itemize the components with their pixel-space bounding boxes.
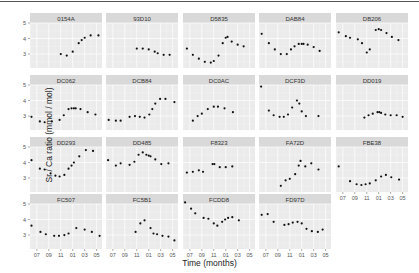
data-point — [226, 36, 228, 38]
panel-background — [259, 147, 331, 192]
data-point — [154, 51, 156, 53]
data-point — [142, 151, 144, 153]
panel-background — [183, 85, 255, 130]
data-point — [225, 166, 227, 168]
data-point — [231, 216, 233, 218]
facet-title: 93D10 — [133, 16, 151, 22]
data-point — [232, 111, 234, 113]
data-point — [384, 113, 386, 115]
data-point — [260, 85, 262, 87]
data-point — [380, 112, 382, 114]
data-point — [219, 166, 221, 168]
data-point — [357, 38, 359, 40]
data-point — [305, 228, 307, 230]
data-point — [213, 222, 215, 224]
y-tick-label: 4 — [23, 217, 26, 223]
data-point — [311, 230, 313, 232]
facet-panel-FBE38: FBE38070911010305 — [336, 137, 408, 201]
x-tick-label: 09 — [352, 195, 358, 201]
data-point — [184, 201, 186, 203]
data-point — [287, 113, 289, 115]
panel-background — [183, 147, 255, 192]
data-point — [268, 110, 270, 112]
data-point — [268, 42, 270, 44]
data-point — [54, 175, 56, 177]
data-point — [197, 115, 199, 117]
data-point — [58, 175, 60, 177]
data-point — [313, 46, 315, 48]
data-point — [367, 114, 369, 116]
data-point — [291, 106, 293, 108]
data-point — [238, 219, 240, 221]
facet-title: DD019 — [363, 78, 382, 84]
facet-title: DC0AC — [209, 78, 230, 84]
panel-background — [106, 204, 178, 249]
data-point — [148, 113, 150, 115]
data-point — [67, 232, 69, 234]
data-point — [274, 48, 276, 50]
data-point — [66, 54, 68, 56]
data-point — [293, 45, 295, 47]
panel-background — [259, 85, 331, 130]
data-point — [201, 113, 203, 115]
x-tick-label: 03 — [388, 195, 394, 201]
facet-panel-DC0AC: DC0AC — [183, 75, 255, 130]
data-point — [283, 224, 285, 226]
data-point — [213, 163, 215, 165]
data-point — [167, 235, 169, 237]
panel-background — [106, 23, 178, 68]
data-point — [139, 116, 141, 118]
data-point — [190, 208, 192, 210]
x-tick-label: 07 — [340, 195, 346, 201]
data-point — [360, 184, 362, 186]
data-point — [391, 36, 393, 38]
data-point — [385, 32, 387, 34]
data-point — [72, 51, 74, 53]
x-axis-label: Time (months) — [0, 258, 419, 268]
facet-title: D5835 — [210, 16, 228, 22]
data-point — [222, 42, 224, 44]
data-point — [369, 48, 371, 50]
data-point — [369, 182, 371, 184]
data-point — [207, 218, 209, 220]
data-point — [280, 185, 282, 187]
data-point — [304, 165, 306, 167]
data-point — [396, 114, 398, 116]
data-point — [154, 158, 156, 160]
data-point — [75, 227, 77, 229]
data-point — [67, 108, 69, 110]
data-point — [237, 44, 239, 46]
data-point — [75, 107, 77, 109]
data-point — [120, 120, 122, 122]
y-tick-label: 4 — [23, 160, 26, 166]
data-point — [207, 108, 209, 110]
facet-title: DC062 — [57, 78, 76, 84]
data-point — [136, 48, 138, 50]
facet-title: DCF3D — [285, 78, 306, 84]
y-tick-label: 5 — [23, 20, 26, 26]
data-point — [45, 233, 47, 235]
facet-panel-FC5B1: FC5B1070911010305 — [106, 194, 178, 258]
data-point — [361, 42, 363, 44]
data-point — [78, 42, 80, 44]
y-tick-label: 4 — [23, 98, 26, 104]
data-point — [372, 113, 374, 115]
panel-background — [336, 23, 408, 68]
data-point — [298, 43, 300, 45]
data-point — [217, 106, 219, 108]
data-point — [143, 219, 145, 221]
data-point — [92, 150, 94, 152]
data-point — [279, 116, 281, 118]
data-point — [39, 231, 41, 233]
data-point — [261, 33, 263, 35]
data-point — [145, 154, 147, 156]
data-point — [73, 161, 75, 163]
facet-title: FD97D — [285, 197, 305, 203]
y-tick-label: 3 — [23, 175, 26, 181]
data-point — [149, 227, 151, 229]
panel-background — [30, 204, 102, 249]
data-point — [366, 51, 368, 53]
data-point — [345, 35, 347, 37]
data-point — [97, 34, 99, 36]
data-point — [159, 98, 161, 100]
